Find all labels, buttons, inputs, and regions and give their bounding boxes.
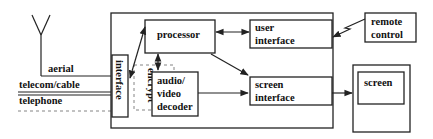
remote-wireless-arrow — [333, 19, 365, 37]
aerial-label: aerial — [48, 63, 74, 74]
screen-interface-label-2: interface — [255, 92, 295, 103]
remote-control-label-2: control — [371, 29, 403, 40]
interface-label: interface — [114, 60, 125, 100]
decoder-label-2: video — [157, 88, 181, 99]
decoder-label-1: audio/ — [157, 75, 186, 86]
user-interface-label-1: user — [255, 22, 275, 33]
telecom-cable-label: telecom/cable — [19, 79, 80, 90]
processor-label: processor — [157, 29, 200, 40]
user-interface-label-2: interface — [255, 35, 295, 46]
screen-interface-label-1: screen — [255, 79, 284, 90]
block-diagram: aerial telecom/cable telephone interface… — [0, 0, 433, 139]
telephone-label: telephone — [19, 95, 63, 106]
remote-control-label-1: remote — [371, 16, 403, 27]
screen-label: screen — [364, 77, 393, 88]
decoder-label-3: decoder — [157, 101, 193, 112]
